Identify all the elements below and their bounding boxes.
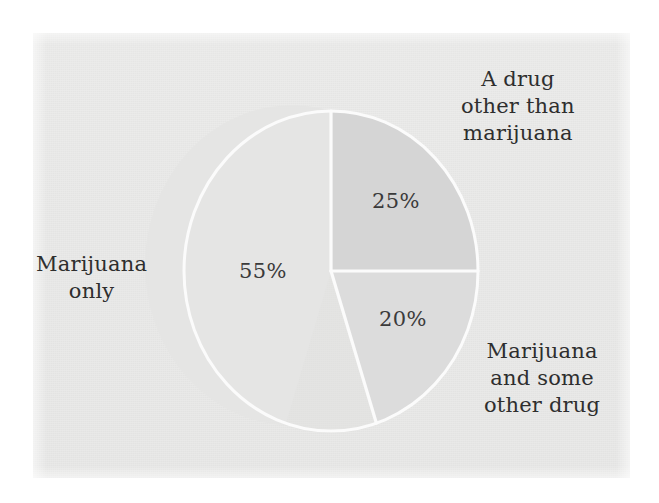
label-other-drug-line-3: marijuana (461, 120, 575, 147)
label-marijuana-only-line-2: only (36, 278, 147, 305)
label-marijuana-and-other-line-1: Marijuana (484, 338, 600, 365)
slice-value-55: 55% (239, 259, 287, 283)
label-other-drug-line-1: A drug (461, 66, 575, 93)
label-marijuana-and-other-line-3: other drug (484, 392, 600, 419)
slice-value-25: 25% (372, 189, 420, 213)
label-marijuana-and-other-line-2: and some (484, 365, 600, 392)
slice-value-20: 20% (379, 307, 427, 331)
pie-chart-figure: 25% 55% 20% A drug other than marijuana … (0, 0, 659, 503)
label-marijuana-only-line-1: Marijuana (36, 251, 147, 278)
label-a-drug-other-than-marijuana: A drug other than marijuana (461, 66, 575, 147)
label-other-drug-line-2: other than (461, 93, 575, 120)
label-marijuana-only: Marijuana only (36, 251, 147, 305)
label-marijuana-and-some-other-drug: Marijuana and some other drug (484, 338, 600, 419)
